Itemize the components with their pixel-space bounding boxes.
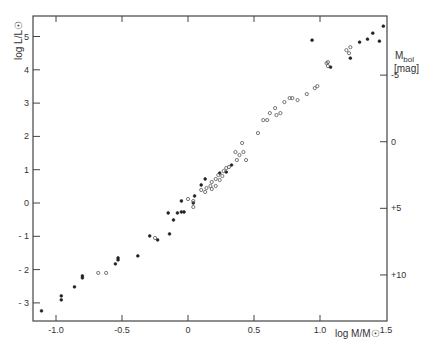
data-point-open <box>274 106 277 109</box>
data-point-open <box>214 184 217 187</box>
data-point-open <box>210 180 213 183</box>
y2-label-m: M <box>395 50 403 61</box>
data-point-filled <box>358 41 361 44</box>
data-point-filled <box>382 25 385 28</box>
y-tick-label: 2 <box>24 131 29 141</box>
y2-axis-label-unit: [mag] <box>394 63 419 74</box>
data-point-filled <box>366 38 369 41</box>
data-point-filled <box>117 259 120 262</box>
data-point-open <box>256 131 259 134</box>
y2-tick-label: 0 <box>391 137 396 147</box>
data-point-open <box>347 52 350 55</box>
data-point-open <box>221 174 224 177</box>
data-point-filled <box>60 299 63 302</box>
y-axis-label: log L/L☉ <box>13 21 24 60</box>
data-point-open <box>242 150 245 153</box>
data-point-open <box>279 111 282 114</box>
data-point-filled <box>311 39 314 42</box>
data-point-filled <box>193 195 196 198</box>
y-axis-left: - 3- 2- 1012345 <box>18 32 40 308</box>
data-point-filled <box>81 277 84 280</box>
data-point-open <box>97 271 100 274</box>
data-point-open <box>153 236 156 239</box>
data-point-open <box>214 177 217 180</box>
data-point-filled <box>172 219 175 222</box>
data-point-filled <box>40 309 43 312</box>
data-point-filled <box>60 295 63 298</box>
data-point-filled <box>371 32 374 35</box>
plot-frame <box>33 16 387 321</box>
y-tick-label: 3 <box>24 98 29 108</box>
data-point-open <box>316 85 319 88</box>
data-point-filled <box>148 235 151 238</box>
data-point-filled <box>200 184 203 187</box>
data-point-open <box>105 271 108 274</box>
y-tick-label: 4 <box>24 65 29 75</box>
y-tick-label: 1 <box>24 165 29 175</box>
data-point-open <box>345 49 348 52</box>
data-point-open <box>238 153 241 156</box>
data-point-filled <box>183 211 186 214</box>
data-point-open <box>205 186 208 189</box>
x-tick-label: -0.5 <box>114 325 130 335</box>
x-axis-label: log M/M☉ <box>335 328 380 339</box>
data-point-open <box>268 111 271 114</box>
data-point-open <box>244 158 247 161</box>
data-point-filled <box>180 200 183 203</box>
data-point-open <box>241 141 244 144</box>
data-point-open <box>275 113 278 116</box>
data-point-open <box>218 178 221 181</box>
data-point-open <box>266 118 269 121</box>
y-axis-label-text: log L/L☉ <box>13 21 24 60</box>
data-point-open <box>234 150 237 153</box>
data-point-open <box>349 46 352 49</box>
data-point-filled <box>204 178 207 181</box>
data-point-open <box>186 197 189 200</box>
data-point-open <box>296 99 299 102</box>
data-point-filled <box>378 40 381 43</box>
data-point-open <box>210 187 213 190</box>
data-points <box>40 25 385 313</box>
y2-tick-label: +10 <box>391 270 406 280</box>
data-point-open <box>326 65 329 68</box>
x-tick-label: 0.5 <box>248 325 261 335</box>
x-tick-label: 1.0 <box>314 325 327 335</box>
y-tick-label: - 2 <box>18 265 29 275</box>
y-tick-label: - 3 <box>18 298 29 308</box>
data-point-open <box>305 93 308 96</box>
y-tick-label: - 1 <box>18 231 29 241</box>
x-tick-label: 1.5 <box>380 325 393 335</box>
y-tick-label: 5 <box>24 32 29 42</box>
data-point-open <box>235 158 238 161</box>
mass-luminosity-chart: -1.0-0.500.51.01.5 - 3- 2- 1012345 -50+5… <box>0 0 421 360</box>
data-point-filled <box>73 286 76 289</box>
data-point-filled <box>167 212 170 215</box>
data-point-filled <box>136 255 139 258</box>
x-tick-label: 0 <box>185 325 190 335</box>
data-point-open <box>222 169 225 172</box>
data-point-open <box>262 118 265 121</box>
data-point-open <box>283 101 286 104</box>
data-point-filled <box>168 233 171 236</box>
y2-tick-label: +5 <box>391 203 401 213</box>
y2-axis-label-main: Mbol <box>395 50 414 64</box>
x-tick-label: -1.0 <box>48 325 64 335</box>
data-point-open <box>192 205 195 208</box>
data-point-filled <box>114 263 117 266</box>
data-point-open <box>200 188 203 191</box>
data-point-open <box>204 190 207 193</box>
data-point-filled <box>176 212 179 215</box>
y-tick-label: 0 <box>24 198 29 208</box>
y-axis-right: -50+5+10 <box>380 70 406 280</box>
data-point-filled <box>349 57 352 60</box>
